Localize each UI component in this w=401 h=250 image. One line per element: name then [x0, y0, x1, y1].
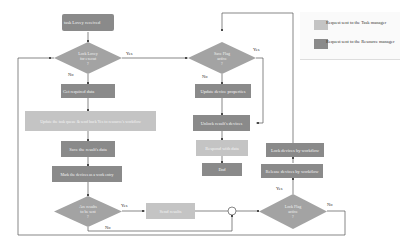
update-task-node: Update the task queue & send back Yes to… [25, 111, 156, 131]
legend-label-resource-manager: Request sent to the Resource manager [326, 39, 396, 44]
send-results-node: Send results [146, 203, 195, 219]
unlock-devices-node: Unlock result's devices [193, 115, 250, 131]
update-properties-node: Update device properties [195, 84, 251, 98]
edge-label-lock-yes: Yes [126, 51, 133, 56]
merge-junction [228, 207, 236, 215]
edge-label-ready-yes: Yes [121, 203, 128, 208]
edge-label-flag-top-yes: Yes [253, 47, 260, 52]
get-required-node: Get required data [61, 84, 115, 98]
decision-lock: Lock Lovey for execut ? [54, 42, 122, 74]
start-node: task Lovey received [62, 14, 114, 31]
mark-devices-node: Mark the devices as a work entry [52, 166, 122, 182]
edge-label-lock-no: No [68, 72, 74, 77]
release-devices-node: Release devices by workflow [261, 164, 323, 178]
decision-flag-top: Save Flag active ? [188, 42, 256, 74]
end-node: End [202, 163, 242, 176]
decision-all-ready: Are results to be sent ? [54, 196, 122, 227]
legend: Request sent to the Task manager Request… [300, 12, 400, 60]
edge-label-ready-no: No [105, 225, 111, 230]
lock-devices-node: Lock devices by workflow [266, 143, 324, 157]
edge-label-flag-bottom-no: No [327, 202, 333, 207]
edge-label-flag-top-no: No [202, 74, 208, 79]
respond-node: Respond with data [196, 140, 248, 156]
legend-label-task-manager: Request sent to the Task manager [326, 20, 396, 25]
decision-flag-bottom: Lock Flag active ? [259, 194, 327, 229]
edge-label-release-yes: Yes [276, 186, 283, 191]
save-data-node: Save the result's data [61, 141, 115, 157]
